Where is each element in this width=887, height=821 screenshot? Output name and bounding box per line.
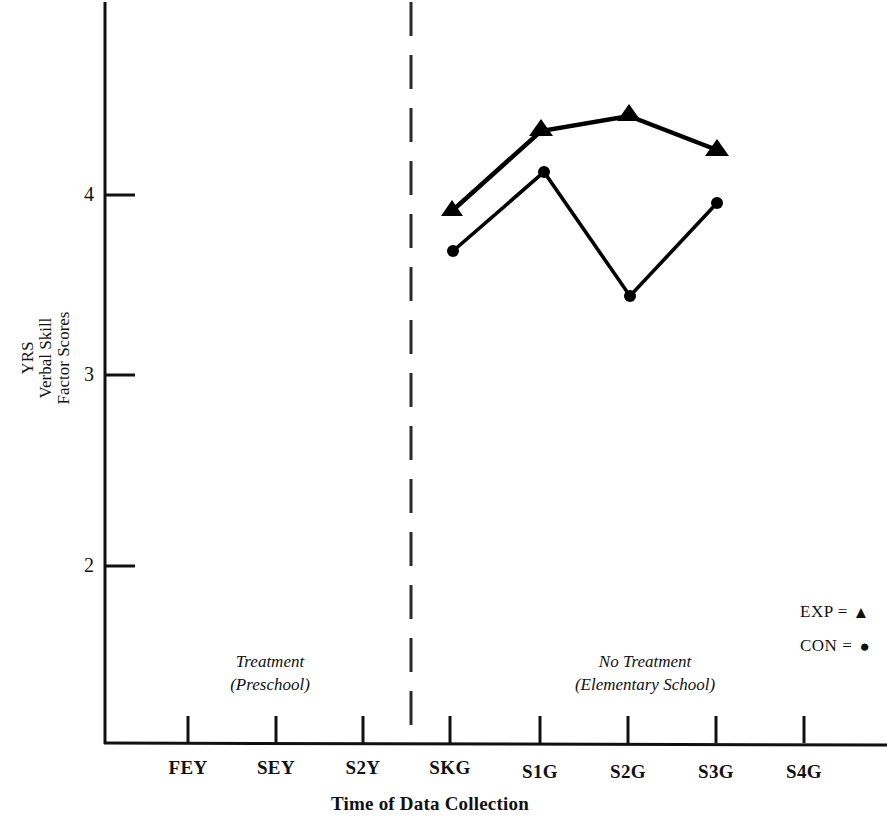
y-axis-title-line-factor-scores: Factor Scores [54,288,74,428]
marker-exp-s2g [617,104,641,121]
legend-label-con: CON [800,636,837,655]
x-axis-line [104,743,887,745]
x-tick-label-fey: FEY [148,757,228,779]
annotation-treatment-line1: Treatment [180,652,360,672]
y-tick-label-4: 4 [58,183,94,207]
marker-con-s2g [624,290,636,302]
marker-con-skg [447,245,459,257]
x-tick-label-skg: SKG [410,757,490,779]
legend-equals-con: = [842,636,852,655]
y-tick-label-2: 2 [58,554,94,578]
x-axis-title: Time of Data Collection [280,793,580,815]
legend-entry-con: CON = ● [800,636,873,657]
plot-canvas [0,0,887,821]
x-tick-label-s3g: S3G [676,761,756,783]
series-line-con [453,172,717,296]
x-tick-label-s1g: S1G [500,761,580,783]
marker-con-s1g [538,166,550,178]
series-line-exp [452,116,717,211]
annotation-treatment-line2: (Preschool) [180,675,360,695]
legend-label-exp: EXP [800,602,833,621]
x-tick-label-s2g: S2G [588,761,668,783]
x-tick-label-sey: SEY [236,757,316,779]
marker-con-s3g [711,197,723,209]
annotation-no-treatment-line2: (Elementary School) [550,675,740,695]
triangle-marker-icon: ▲ [853,603,869,623]
x-tick-label-s4g: S4G [764,761,844,783]
x-tick-label-s2y: S2Y [323,757,403,779]
legend-entry-exp: EXP = ▲ [800,602,869,623]
annotation-no-treatment-line1: No Treatment [550,652,740,672]
chart-figure: 4 3 2 YRS Verbal Skill Factor Scores FEY… [0,0,887,821]
legend-equals-exp: = [838,602,848,621]
circle-marker-icon: ● [857,637,873,657]
